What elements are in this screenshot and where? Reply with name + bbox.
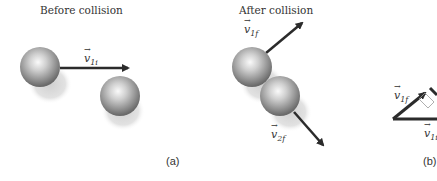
vector-v2f-partial [430, 88, 437, 95]
collision-diagram: Before collision After collision →v1i →v… [0, 0, 437, 181]
label-b-v1i: →v1i [424, 127, 437, 142]
diagram-graphics [0, 0, 437, 181]
velocity-arrow-v1f [266, 23, 302, 53]
sphere-2 [100, 76, 140, 116]
after-collision-title: After collision [239, 4, 313, 16]
panel-label-a: (a) [166, 155, 179, 167]
sphere-1 [20, 47, 60, 87]
panel-label-b: (b) [423, 155, 436, 167]
sphere-1 [232, 47, 272, 87]
label-v2f: →v2f [271, 128, 285, 143]
sphere-2 [260, 76, 300, 116]
label-v1i: →v1i [84, 52, 98, 67]
panel-a [20, 47, 145, 131]
before-collision-title: Before collision [40, 4, 123, 16]
label-v1f: →v1f [244, 23, 258, 38]
label-b-v1f: →v1f [394, 89, 408, 104]
